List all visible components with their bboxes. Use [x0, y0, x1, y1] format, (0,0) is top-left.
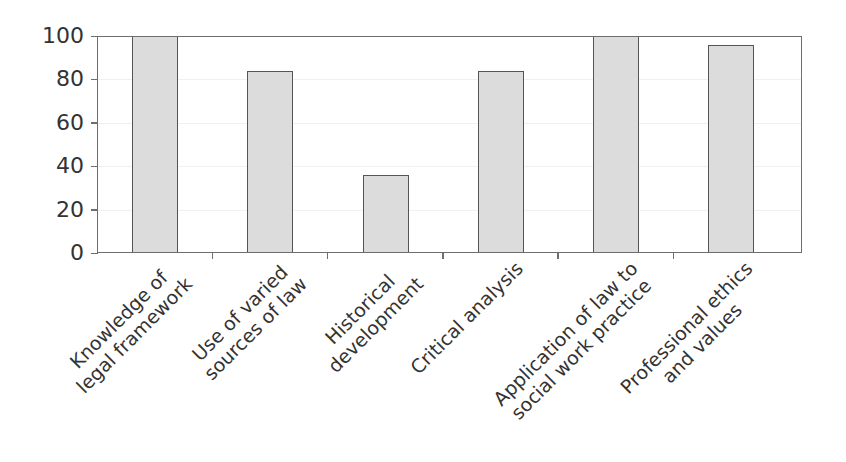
- x-tick-label-line: and values: [632, 273, 773, 414]
- y-tick-label: 80: [4, 68, 84, 90]
- x-tick-label: Critical analysis: [405, 257, 526, 378]
- y-tick: [91, 122, 98, 124]
- y-tick-label: 40: [4, 155, 84, 177]
- x-tick: [557, 253, 559, 259]
- y-tick: [91, 166, 98, 168]
- x-tick-label-line: Critical analysis: [405, 257, 526, 378]
- x-tick-label: Use of variedsources of law: [184, 257, 311, 384]
- x-tick-label-line: social work practice: [504, 273, 657, 426]
- x-tick-label: Knowledge oflegal framework: [56, 257, 196, 397]
- y-tick-label: 0: [4, 242, 84, 264]
- x-tick: [212, 253, 214, 259]
- y-tick-label: 20: [4, 199, 84, 221]
- y-tick-label: 100: [4, 25, 84, 47]
- plot-area: [97, 36, 802, 253]
- y-tick: [91, 209, 98, 211]
- x-tick: [673, 253, 675, 259]
- x-tick: [327, 253, 329, 259]
- x-tick: [442, 253, 444, 259]
- bar-chart: 020406080100 Knowledge oflegal framework…: [0, 0, 846, 462]
- y-tick: [91, 253, 98, 255]
- y-tick-label: 60: [4, 112, 84, 134]
- y-tick: [91, 79, 98, 81]
- y-tick: [91, 36, 98, 38]
